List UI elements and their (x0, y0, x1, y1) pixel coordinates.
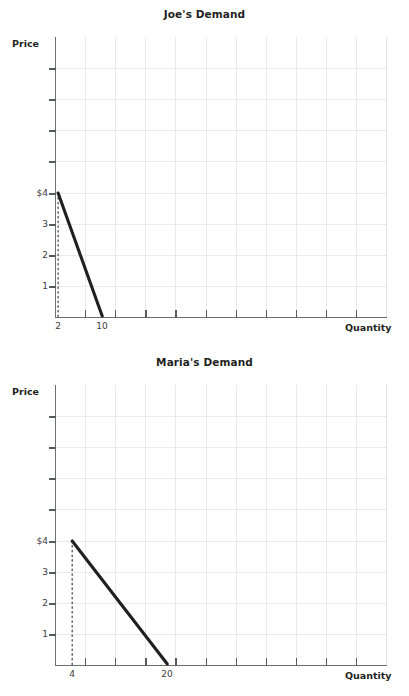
x-axis-line (55, 317, 387, 318)
x-tick-label-20: 20 (152, 669, 182, 679)
y-tick-label-1: 1 (18, 281, 48, 291)
plot-right-border (386, 385, 387, 666)
y-tick-label-4: $4 (18, 188, 48, 198)
y-tick-label-3: 3 (18, 219, 48, 229)
y-axis-label: Price (12, 386, 39, 397)
y-tick-label-3: 3 (18, 567, 48, 577)
x-axis-label: Quantity (345, 670, 392, 681)
chart-title: Joe's Demand (0, 8, 409, 20)
y-axis-label: Price (12, 38, 39, 49)
x-axis-line (55, 665, 387, 666)
x-axis-label: Quantity (345, 322, 392, 333)
plot-area (55, 37, 386, 317)
y-tick-label-1: 1 (18, 629, 48, 639)
x-tick-label-4: 4 (57, 669, 87, 679)
x-tick-label-2: 2 (43, 321, 73, 331)
y-axis-line (55, 37, 56, 318)
plot-right-border (386, 37, 387, 318)
plot-area (55, 385, 386, 665)
chart-marias-demand: Maria's Demand Price Quantity $4 3 2 1 (0, 348, 409, 696)
y-axis-line (55, 385, 56, 666)
y-tick-label-4: $4 (18, 536, 48, 546)
y-tick-label-2: 2 (18, 598, 48, 608)
y-tick-label-2: 2 (18, 250, 48, 260)
chart-title: Maria's Demand (0, 356, 409, 368)
x-tick-label-10: 10 (87, 321, 117, 331)
chart-joes-demand: Joe's Demand Price Quantity $4 3 2 1 (0, 0, 409, 348)
